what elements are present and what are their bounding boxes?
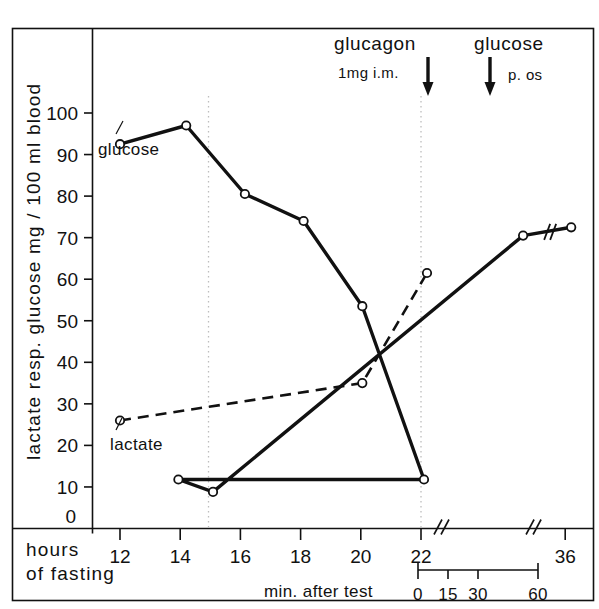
data-point-marker bbox=[116, 416, 124, 424]
y-tick-label: 30 bbox=[57, 394, 78, 415]
y-tick-label: 70 bbox=[57, 228, 78, 249]
secondary-axis: 0153060 bbox=[413, 563, 548, 604]
series-lactate bbox=[116, 269, 431, 425]
data-point-marker bbox=[420, 475, 428, 483]
y-tick-label: 10 bbox=[57, 477, 78, 498]
series-leader-lines bbox=[116, 121, 123, 430]
secondary-tick-label: 30 bbox=[468, 585, 488, 604]
secondary-tick-label: 15 bbox=[438, 585, 458, 604]
series-glucose bbox=[116, 121, 576, 496]
annotation-glucagon: glucagon 1mg i.m. bbox=[334, 33, 434, 96]
x-tick-label: 22 bbox=[410, 546, 431, 567]
data-point-marker bbox=[567, 223, 575, 231]
data-point-marker bbox=[519, 231, 527, 239]
y-tick-label: 90 bbox=[57, 145, 78, 166]
data-point-marker bbox=[174, 475, 182, 483]
y-tick-label: 20 bbox=[57, 435, 78, 456]
data-point-marker bbox=[209, 488, 217, 496]
x-tick-label: 14 bbox=[170, 546, 192, 567]
x-tick-label: 18 bbox=[290, 546, 311, 567]
y-tick-label: 100 bbox=[46, 103, 78, 124]
axis-break-mark bbox=[434, 520, 449, 535]
annotation-glucagon-sub: 1mg i.m. bbox=[338, 64, 399, 81]
annotation-glucose-title: glucose bbox=[474, 33, 544, 54]
y-axis-title: lactate resp. glucose mg / 100 ml blood bbox=[23, 83, 44, 460]
x-axis-title-line1: hours bbox=[26, 539, 80, 560]
secondary-tick-label: 60 bbox=[528, 585, 548, 604]
secondary-axis-title: min. after test bbox=[264, 582, 373, 601]
event-guide-lines bbox=[209, 96, 421, 529]
secondary-tick-label: 0 bbox=[413, 585, 423, 604]
series-line bbox=[120, 126, 571, 492]
axis-break-marks bbox=[434, 520, 541, 535]
y-axis: 102030405060708090100 bbox=[46, 103, 92, 498]
figure-frame bbox=[13, 29, 594, 601]
data-point-marker bbox=[241, 190, 249, 198]
annotation-glucose-dose: glucose p. os bbox=[474, 33, 544, 96]
x-tick-label: 36 bbox=[555, 546, 576, 567]
data-point-marker bbox=[299, 217, 307, 225]
down-arrow-icon bbox=[485, 57, 496, 96]
annotation-glucose-sub: p. os bbox=[508, 66, 543, 83]
x-axis-title-line2: of fasting bbox=[26, 563, 115, 584]
series-label-lactate: lactate bbox=[110, 435, 163, 454]
y-tick-label: 40 bbox=[57, 352, 78, 373]
data-point-marker bbox=[358, 302, 366, 310]
x-axis: 12141618202236 bbox=[109, 529, 575, 568]
x-tick-label: 20 bbox=[350, 546, 371, 567]
data-point-marker bbox=[358, 379, 366, 387]
y-tick-label: 60 bbox=[57, 269, 78, 290]
series-label-glucose: glucose bbox=[98, 140, 159, 159]
data-point-marker bbox=[182, 121, 190, 129]
annotation-glucagon-title: glucagon bbox=[334, 33, 416, 54]
data-point-marker bbox=[423, 269, 431, 277]
y-tick-label-zero: 0 bbox=[65, 506, 76, 527]
y-tick-label: 80 bbox=[57, 186, 78, 207]
series-line bbox=[120, 273, 427, 421]
scientific-line-chart: 102030405060708090100 12141618202236 glu… bbox=[0, 0, 599, 609]
axis-break-mark bbox=[526, 520, 541, 535]
figure-canvas: 102030405060708090100 12141618202236 glu… bbox=[0, 0, 599, 609]
down-arrow-icon bbox=[423, 57, 434, 96]
y-tick-label: 50 bbox=[57, 311, 78, 332]
x-tick-label: 16 bbox=[230, 546, 251, 567]
